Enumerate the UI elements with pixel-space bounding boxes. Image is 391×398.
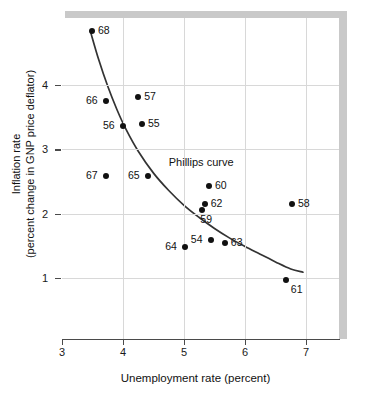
gridline-vertical (184, 18, 185, 339)
data-point-label: 66 (86, 95, 98, 106)
data-point-marker (103, 173, 109, 179)
x-tick-mark (184, 339, 185, 345)
data-point-label: 62 (211, 198, 223, 209)
data-point-label: 60 (215, 180, 227, 191)
x-tick-label: 3 (50, 347, 74, 358)
data-point-label: 68 (98, 25, 110, 36)
x-tick-label: 6 (233, 347, 257, 358)
x-tick-mark (123, 339, 124, 345)
figure-shadow-right (339, 11, 347, 339)
x-axis-line (62, 339, 340, 340)
data-point-label: 57 (144, 91, 156, 102)
data-point-marker (206, 183, 212, 189)
x-tick-label: 5 (172, 347, 196, 358)
data-point-label: 59 (200, 214, 212, 225)
data-point-marker (283, 277, 289, 283)
gridline-vertical (123, 18, 124, 339)
data-point-marker (135, 94, 141, 100)
data-point-label: 65 (128, 170, 140, 181)
data-point-label: 56 (103, 120, 115, 131)
data-point-marker (289, 201, 295, 207)
y-tick-mark (55, 149, 61, 150)
gridline-horizontal (62, 278, 339, 279)
data-point-label: 55 (148, 118, 160, 129)
data-point-label: 67 (86, 170, 98, 181)
y-axis-title: Inflation rate (percent change in GNP pr… (9, 49, 37, 279)
x-tick-mark (306, 339, 307, 345)
x-axis-title: Unemployment rate (percent) (0, 372, 391, 384)
gridline-vertical (245, 18, 246, 339)
x-tick-mark (62, 339, 63, 345)
x-tick-label: 4 (111, 347, 135, 358)
y-axis-title-line1: Inflation rate (9, 49, 23, 279)
data-point-marker (208, 237, 214, 243)
data-point-label: 58 (298, 198, 310, 209)
data-point-label: 63 (231, 237, 243, 248)
data-point-marker (103, 98, 109, 104)
x-tick-label: 7 (294, 347, 318, 358)
y-tick-mark (55, 214, 61, 215)
data-point-label: 61 (291, 284, 303, 295)
curve-annotation-label: Phillips curve (169, 157, 234, 168)
gridline-horizontal (62, 149, 339, 150)
data-point-label: 54 (191, 234, 203, 245)
gridline-vertical (306, 18, 307, 339)
y-tick-mark (55, 278, 61, 279)
gridline-horizontal (62, 85, 339, 86)
x-tick-mark (245, 339, 246, 345)
y-axis-title-line2: (percent change in GNP price deflator) (23, 49, 37, 279)
data-point-marker (89, 28, 95, 34)
phillips-curve-figure: 1234 34567 68665756556765606259585463646… (0, 0, 391, 398)
data-point-label: 64 (165, 241, 177, 252)
data-point-marker (145, 173, 151, 179)
y-tick-mark (55, 85, 61, 86)
